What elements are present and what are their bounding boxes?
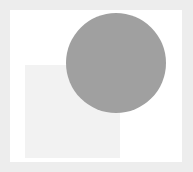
shape-circle xyxy=(66,13,166,113)
axes-panel xyxy=(10,10,182,162)
figure-canvas xyxy=(0,0,193,172)
